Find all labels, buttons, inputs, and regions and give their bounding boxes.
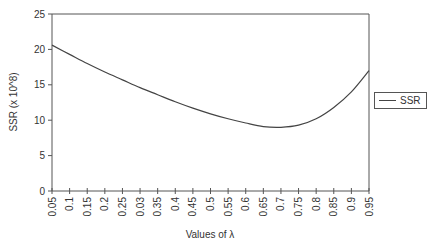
plot-area: [52, 14, 369, 191]
x-tick-label: 0.05: [47, 197, 58, 217]
legend-label: SSR: [400, 95, 421, 106]
ssr-line: [52, 45, 369, 127]
y-axis: 0510152025: [34, 9, 52, 197]
y-tick-label: 15: [34, 79, 46, 90]
x-tick-label: 0.5: [205, 197, 216, 211]
x-tick-label: 0.45: [187, 197, 198, 217]
y-tick-label: 25: [34, 9, 46, 20]
x-tick-label: 0.55: [223, 197, 234, 217]
x-tick-label: 0.75: [293, 197, 304, 217]
x-tick-label: 0.8: [311, 197, 322, 211]
y-tick-label: 0: [39, 186, 45, 197]
x-tick-label: 0.03: [135, 197, 146, 217]
x-tick-label: 0.65: [258, 197, 269, 217]
legend-line-icon: [379, 100, 396, 101]
y-tick-label: 10: [34, 115, 46, 126]
x-tick-label: 0.7: [275, 197, 286, 211]
x-tick-label: 0.85: [328, 197, 339, 217]
x-axis-title: Values of λ: [186, 229, 235, 240]
y-tick-label: 20: [34, 44, 46, 55]
x-tick-label: 0.6: [240, 197, 251, 211]
x-tick-label: 0.9: [346, 197, 357, 211]
y-tick-label: 5: [39, 150, 45, 161]
y-axis-title: SSR (x 10^8): [8, 72, 19, 131]
x-axis: 0.050.10.150.20.250.030.350.40.450.50.55…: [47, 188, 375, 216]
x-tick-label: 0.35: [152, 197, 163, 217]
x-tick-label: 0.1: [64, 197, 75, 211]
x-tick-label: 0.4: [170, 197, 181, 211]
x-tick-label: 0.95: [364, 197, 375, 217]
x-tick-label: 0.15: [82, 197, 93, 217]
x-tick-label: 0.25: [117, 197, 128, 217]
legend: SSR: [374, 92, 427, 109]
x-tick-label: 0.2: [99, 197, 110, 211]
chart: 0510152025 0.050.10.150.20.250.030.350.4…: [0, 0, 447, 245]
